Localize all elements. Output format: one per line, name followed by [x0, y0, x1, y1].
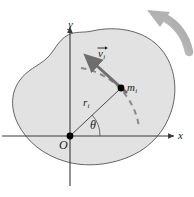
radius-base: r [83, 96, 87, 108]
mass-m-i-label: mi [127, 82, 137, 93]
vector-overbar-arrow-icon [97, 45, 108, 50]
figure-canvas [0, 0, 194, 197]
y-axis-label: y [68, 19, 73, 30]
rigid-body-rotation-figure: y x O θ mi ri vi [0, 0, 194, 197]
radius-r-i-label: ri [83, 97, 89, 108]
mass-base: m [127, 81, 135, 93]
x-axis-label: x [178, 130, 183, 141]
angle-theta-label: θ [90, 119, 96, 131]
mass-subscript: i [135, 87, 137, 94]
origin-label: O [59, 139, 68, 151]
velocity-v-i-label: vi [98, 48, 105, 59]
rigid-body-blob [13, 29, 175, 165]
velocity-subscript: i [103, 53, 105, 60]
mass-element-point [118, 85, 125, 92]
